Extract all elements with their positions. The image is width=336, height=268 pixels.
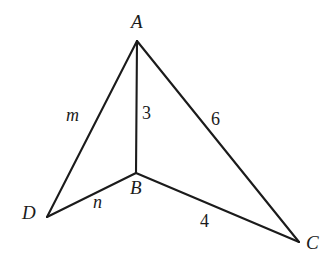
geometry-figure: A B C D m 3 6 n 4	[0, 0, 336, 268]
vertex-label-b: B	[130, 178, 142, 197]
edge-label-bc: 4	[200, 212, 209, 230]
segment-db	[47, 173, 136, 217]
segment-ac	[137, 41, 299, 242]
vertex-label-d: D	[22, 203, 36, 222]
segment-ad	[47, 41, 137, 217]
segment-bc	[136, 173, 299, 242]
vertex-label-c: C	[306, 233, 319, 252]
segment-ab	[136, 41, 137, 173]
edge-label-ad: m	[66, 106, 79, 124]
vertex-label-a: A	[131, 12, 143, 31]
geometry-canvas	[0, 0, 336, 268]
edge-label-ab: 3	[142, 104, 151, 122]
edge-label-db: n	[93, 193, 102, 211]
edge-label-ac: 6	[211, 110, 220, 128]
